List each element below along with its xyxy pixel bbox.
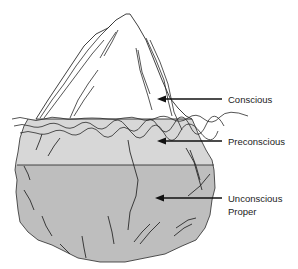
unconscious-label-line2: Proper — [228, 206, 257, 217]
unconscious-label-line1: Unconscious — [228, 193, 283, 204]
preconscious-label: Preconscious — [228, 136, 285, 147]
unconscious-region — [0, 165, 298, 269]
iceberg-diagram: Conscious Preconscious Unconscious Prope… — [0, 0, 298, 269]
conscious-label: Conscious — [228, 94, 273, 105]
